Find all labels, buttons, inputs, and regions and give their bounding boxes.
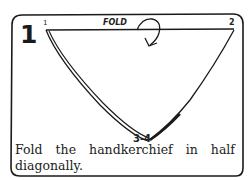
fold-edge-line bbox=[46, 29, 234, 30]
corner-label-2: 2 bbox=[229, 18, 235, 27]
fold-label: FOLD bbox=[103, 18, 127, 27]
instruction-caption: Fold the handkerchief in half diagonally… bbox=[15, 142, 235, 174]
step-number: 1 bbox=[20, 22, 37, 47]
corner-label-1: 1 bbox=[43, 19, 47, 27]
fold-arrow-icon bbox=[137, 19, 160, 45]
handkerchief-left-edge bbox=[46, 30, 148, 141]
handkerchief-right-edge bbox=[149, 30, 234, 140]
instruction-card: 1 1 2 FOLD 3-4 Fold the handkerchief in … bbox=[0, 0, 252, 180]
